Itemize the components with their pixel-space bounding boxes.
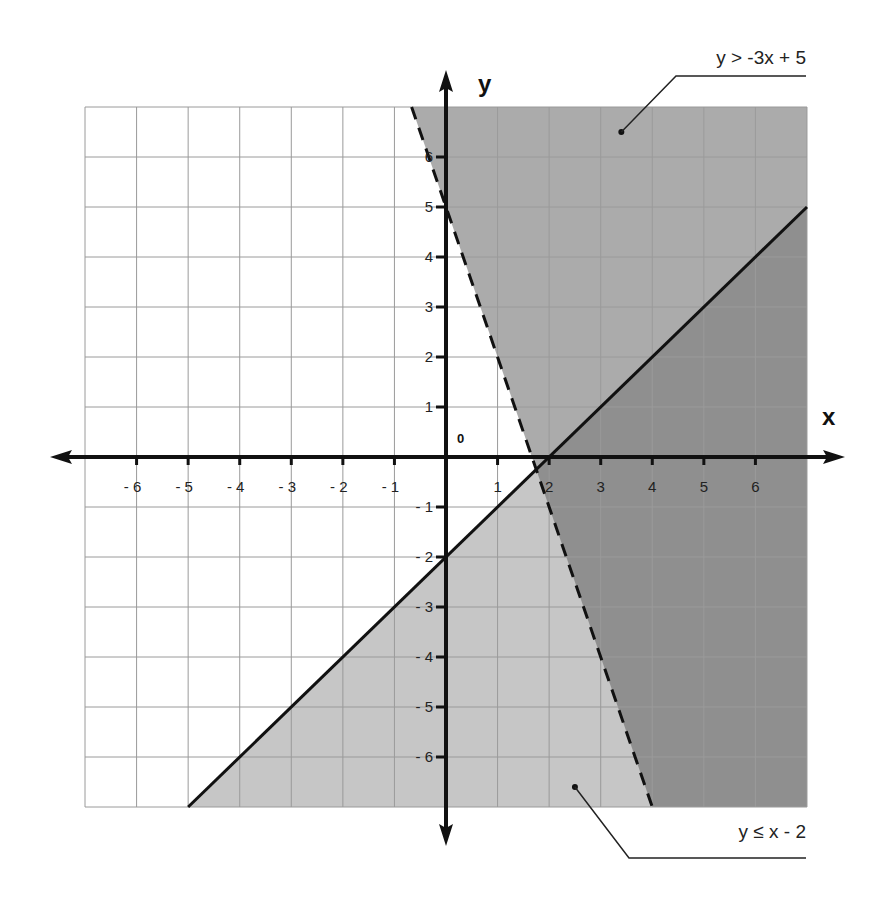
x-tick-label: 4 (648, 478, 656, 495)
x-tick-label: 2 (545, 478, 553, 495)
x-tick-label: 6 (751, 478, 759, 495)
x-tick-label: 5 (700, 478, 708, 495)
annotation-label-bottom: y ≤ x - 2 (739, 821, 806, 842)
y-tick-label: - 6 (415, 748, 433, 765)
y-tick-label: 3 (425, 298, 433, 315)
y-tick-label: 2 (425, 348, 433, 365)
y-tick-label: - 4 (415, 648, 433, 665)
origin-label: 0 (457, 431, 464, 446)
x-axis-label: x (822, 403, 836, 430)
x-tick-label: - 5 (175, 478, 193, 495)
x-tick-label: - 1 (382, 478, 400, 495)
x-tick-label: - 4 (227, 478, 245, 495)
y-axis-label: y (478, 70, 492, 97)
y-tick-label: - 1 (415, 498, 433, 515)
y-tick-label: 4 (425, 248, 433, 265)
x-tick-label: 3 (597, 478, 605, 495)
x-tick-label: - 3 (279, 478, 297, 495)
annotation-label-top: y > -3x + 5 (716, 47, 806, 68)
x-tick-label: - 6 (124, 478, 142, 495)
y-tick-label: - 2 (415, 548, 433, 565)
y-tick-label: 6 (425, 148, 433, 165)
y-tick-label: 5 (425, 198, 433, 215)
x-tick-label: - 2 (330, 478, 348, 495)
y-tick-label: - 3 (415, 598, 433, 615)
y-tick-label: 1 (425, 398, 433, 415)
less-equal-symbol: ≤ (753, 821, 763, 842)
x-tick-label: 1 (493, 478, 501, 495)
y-tick-label: - 5 (415, 698, 433, 715)
inequality-graph: - 6- 5- 4- 3- 2- 1123456- 6- 5- 4- 3- 2-… (0, 0, 886, 904)
